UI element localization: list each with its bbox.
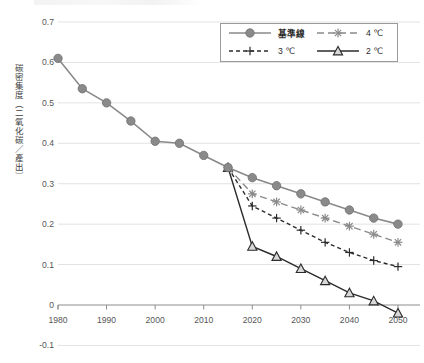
legend-item-c4[interactable]: 4 ℃: [315, 27, 383, 39]
legend-item-c2[interactable]: 2 ℃: [315, 45, 383, 57]
legend-item-c3[interactable]: 3 ℃: [227, 45, 295, 57]
legend-label-c3: 3 ℃: [278, 46, 295, 56]
legend-label-c2: 2 ℃: [366, 46, 383, 56]
legend-label-c4: 4 ℃: [366, 28, 383, 38]
legend-symbol-c4: [315, 27, 361, 39]
chart-legend: 基準線4 ℃3 ℃2 ℃: [220, 23, 398, 62]
legend-symbol-c2: [315, 45, 361, 57]
series-baseline: [54, 54, 402, 228]
legend-symbol-baseline: [227, 27, 273, 39]
carbon-intensity-chart: 碳密集度（二氧化碳／產出） 0.70.60.50.40.30.20.10-0.1…: [0, 0, 424, 363]
legend-item-baseline[interactable]: 基準線: [227, 27, 305, 39]
series-2C: [223, 163, 402, 317]
legend-label-baseline: 基準線: [278, 27, 305, 39]
legend-symbol-c3: [227, 45, 273, 57]
